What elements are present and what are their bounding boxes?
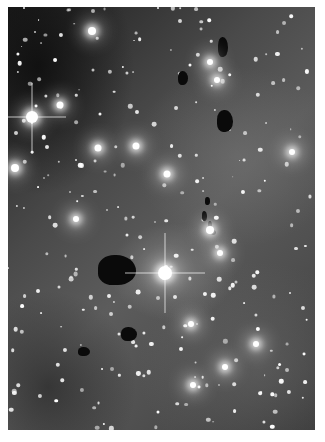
faint-star xyxy=(234,358,238,362)
faint-star xyxy=(75,268,77,270)
faint-star xyxy=(210,40,213,43)
bright-star xyxy=(214,77,220,83)
faint-star xyxy=(258,189,261,192)
faint-star xyxy=(109,312,113,316)
bright-star xyxy=(164,171,171,178)
faint-star xyxy=(16,205,18,207)
faint-star xyxy=(54,58,58,62)
faint-star xyxy=(282,78,286,82)
faint-star xyxy=(89,295,93,299)
faint-star xyxy=(265,53,267,55)
faint-star xyxy=(198,385,201,388)
faint-star xyxy=(162,326,165,329)
faint-star xyxy=(23,7,25,9)
faint-star xyxy=(252,285,257,290)
faint-star xyxy=(157,7,159,9)
faint-star xyxy=(264,179,266,181)
bright-star xyxy=(190,382,196,388)
dark-globule xyxy=(121,327,137,341)
faint-star xyxy=(113,174,116,177)
faint-star xyxy=(94,160,97,163)
faint-star xyxy=(77,201,79,203)
faint-star xyxy=(18,61,23,66)
faint-star xyxy=(194,376,196,378)
faint-star xyxy=(96,37,99,40)
faint-star xyxy=(305,69,309,73)
faint-star xyxy=(13,327,18,332)
faint-star xyxy=(223,339,227,343)
faint-star xyxy=(285,368,289,372)
bright-star xyxy=(217,250,223,256)
faint-star xyxy=(74,120,78,124)
faint-star xyxy=(276,366,279,369)
faint-star xyxy=(136,371,140,375)
dark-globule xyxy=(217,110,233,132)
faint-star xyxy=(41,135,45,139)
faint-star xyxy=(258,148,262,152)
faint-star xyxy=(188,64,191,67)
faint-star xyxy=(211,293,215,297)
faint-star xyxy=(106,209,108,211)
faint-star xyxy=(302,353,305,356)
faint-star xyxy=(214,216,218,220)
faint-star xyxy=(54,399,58,403)
faint-star xyxy=(38,19,40,21)
faint-star xyxy=(103,7,106,10)
bright-star xyxy=(95,145,102,152)
faint-star xyxy=(218,384,220,386)
faint-star xyxy=(273,295,276,298)
faint-star xyxy=(242,158,245,161)
faint-star xyxy=(130,256,133,259)
faint-star xyxy=(69,191,71,193)
faint-star xyxy=(113,301,115,303)
faint-star xyxy=(300,47,302,49)
faint-star xyxy=(282,21,286,25)
faint-star xyxy=(303,380,307,384)
faint-star xyxy=(142,331,145,334)
faint-star xyxy=(194,361,197,364)
faint-star xyxy=(191,248,194,251)
faint-star xyxy=(81,195,83,197)
faint-star xyxy=(103,170,106,173)
faint-star xyxy=(127,304,132,309)
faint-star xyxy=(304,245,306,247)
faint-star xyxy=(107,294,111,298)
faint-star xyxy=(201,376,204,379)
faint-star xyxy=(179,346,183,350)
dark-globule xyxy=(78,347,90,356)
dark-globule xyxy=(98,255,136,285)
faint-star xyxy=(170,49,172,51)
faint-star xyxy=(273,409,278,414)
faint-star xyxy=(21,46,23,48)
bright-star xyxy=(57,102,64,109)
faint-star xyxy=(134,31,137,34)
faint-star xyxy=(132,71,134,73)
faint-star xyxy=(45,252,48,255)
faint-star xyxy=(75,159,77,161)
faint-star xyxy=(258,391,262,395)
faint-star xyxy=(285,343,288,346)
faint-star xyxy=(254,57,259,62)
faint-star xyxy=(256,271,259,274)
faint-star xyxy=(91,68,94,71)
faint-star xyxy=(14,131,18,135)
bright-star xyxy=(11,164,19,172)
faint-star xyxy=(289,292,291,294)
faint-star xyxy=(36,289,40,293)
faint-star xyxy=(290,129,292,131)
faint-star xyxy=(94,306,98,310)
faint-star xyxy=(181,336,183,338)
faint-star xyxy=(40,42,42,44)
faint-star xyxy=(203,292,207,296)
faint-star xyxy=(37,78,41,82)
faint-star xyxy=(23,159,28,164)
faint-star xyxy=(118,374,120,376)
faint-star xyxy=(73,23,75,25)
faint-star xyxy=(79,388,83,392)
faint-star xyxy=(95,425,100,430)
dark-globule xyxy=(202,211,207,221)
faint-star xyxy=(139,236,143,240)
faint-star xyxy=(156,296,160,300)
faint-star xyxy=(211,84,213,86)
faint-star xyxy=(23,37,28,42)
